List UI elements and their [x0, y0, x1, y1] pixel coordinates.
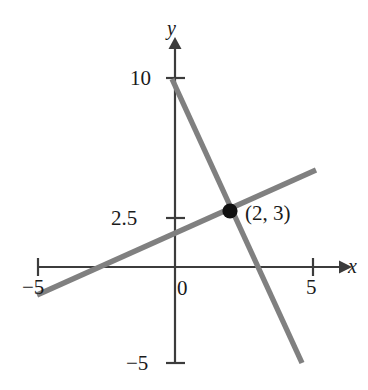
x-tick-label-5: 5 [306, 277, 317, 298]
coordinate-plane-svg [0, 0, 368, 390]
y-tick-label-2point5: 2.5 [111, 208, 137, 229]
graph-figure: 10 2.5 −5 −5 5 0 x y (2, 3) [0, 0, 368, 390]
y-tick-label-minus5: −5 [126, 353, 148, 374]
intersection-point-label: (2, 3) [245, 203, 291, 224]
y-axis-label: y [167, 18, 176, 38]
x-tick-label-minus5: −5 [22, 277, 44, 298]
x-axis-label: x [348, 256, 357, 276]
origin-label: 0 [177, 278, 188, 299]
intersection-point-marker [222, 203, 237, 218]
y-tick-label-10: 10 [130, 68, 151, 89]
